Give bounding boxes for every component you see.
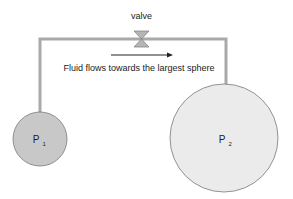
sphere-p1-label: P — [33, 134, 40, 145]
flow-caption: Fluid flows towards the largest sphere — [63, 63, 214, 73]
flow-arrow-icon — [111, 53, 173, 58]
sphere-p2: P 2 — [170, 84, 278, 192]
pipe-diagram: valve Fluid flows towards the largest sp… — [0, 0, 293, 199]
valve-label: valve — [131, 11, 152, 21]
sphere-p1: P 1 — [13, 112, 67, 166]
sphere-p2-label: P — [219, 134, 226, 145]
